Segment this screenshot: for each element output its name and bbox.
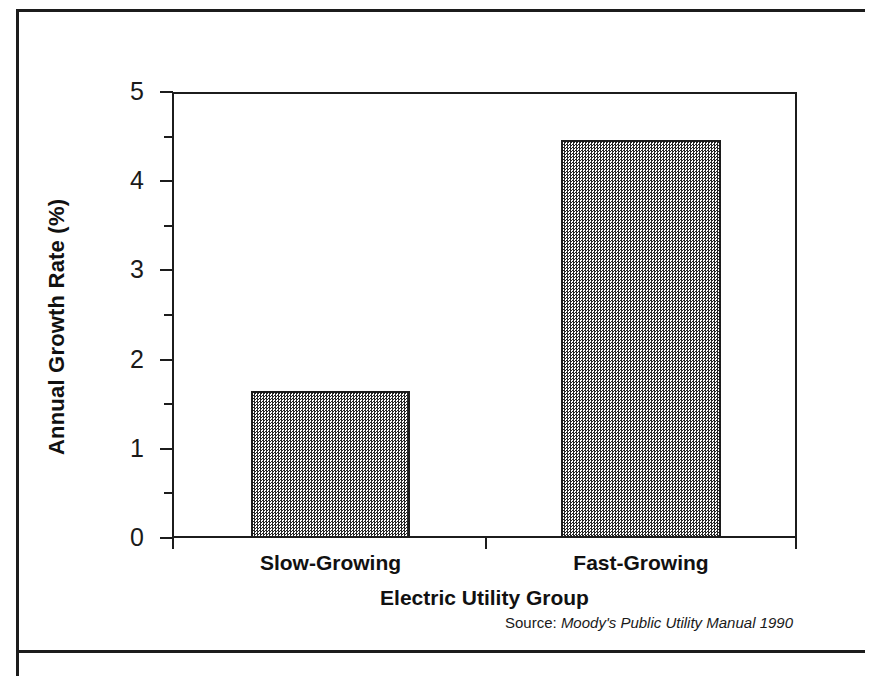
x-axis-tick [172,538,174,549]
y-axis-tick-label: 4 [104,168,144,193]
x-axis-title: Electric Utility Group [285,586,685,610]
bar [251,391,410,538]
source-note: Source: Moody's Public Utility Manual 19… [505,614,793,631]
source-publication: Moody's Public Utility Manual 1990 [561,614,793,631]
x-axis-tick [485,538,487,549]
x-axis-category-label: Fast-Growing [491,551,791,575]
bar-series [172,92,797,538]
y-axis-tick-label: 1 [104,436,144,461]
figure-frame-bottom-rule [16,650,865,653]
y-axis-title: Annual Growth Rate (%) [44,199,70,455]
bar [561,140,721,538]
figure-frame-left-border [16,9,19,676]
x-axis-tick [795,538,797,549]
y-axis-tick-label: 5 [104,79,144,104]
y-axis-tick-label: 3 [104,257,144,282]
figure-frame-top-border [16,9,865,12]
source-label: Source: [505,614,557,631]
y-axis-tick-label: 2 [104,347,144,372]
figure-root: Annual Growth Rate (%) 012345 Slow-Growi… [0,0,870,676]
x-axis-category-label: Slow-Growing [181,551,481,575]
y-axis-tick-label: 0 [104,525,144,550]
